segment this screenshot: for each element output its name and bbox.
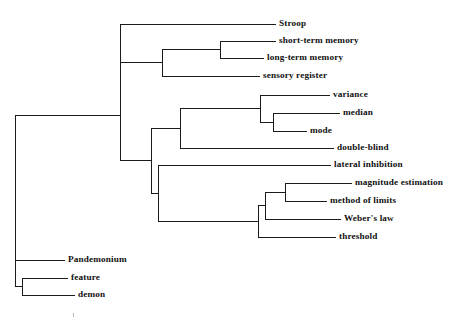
dendrogram-canvas: Stroopshort-term memorylong-term memorys… — [0, 0, 466, 327]
leaf-label-feature: feature — [71, 272, 100, 282]
link-stats-sensation — [151, 128, 180, 193]
leaf-label-sensory-register: sensory register — [263, 70, 327, 80]
link-psycho-threshold — [258, 206, 336, 238]
link-cognition — [120, 24, 276, 63]
leaf-label-median: median — [343, 107, 373, 117]
leaf-label-demon: demon — [78, 289, 105, 299]
link-variance-stats — [260, 95, 330, 122]
link-memory-sensory — [162, 50, 260, 77]
leaf-label-long-term-memory: long-term memory — [267, 52, 343, 62]
leaf-label-magnitude-estimation: magnitude estimation — [355, 177, 443, 187]
leaf-label-variance: variance — [333, 89, 368, 99]
leaf-label-mode: mode — [310, 125, 332, 135]
link-lateral-psycho — [158, 165, 331, 221]
leaf-label-lateral-inhibition: lateral inhibition — [334, 159, 403, 169]
artifact-speck — [73, 313, 74, 317]
leaf-label-method-of-limits: method of limits — [330, 195, 396, 205]
leaf-label-short-term-memory: short-term memory — [279, 35, 359, 45]
leaf-label-layer: Stroopshort-term memorylong-term memorys… — [68, 18, 443, 299]
leaf-label-stroop: Stroop — [279, 18, 306, 28]
leaf-label-webers-law: Weber's law — [344, 213, 394, 223]
dendrogram-figure: Stroopshort-term memorylong-term memorys… — [0, 0, 466, 327]
leaf-label-pandemonium: Pandemonium — [68, 254, 127, 264]
link-upper-root — [120, 63, 151, 161]
link-root — [15, 115, 120, 260]
link-feature-demon — [22, 278, 75, 295]
leaf-label-double-blind: double-blind — [337, 142, 389, 152]
leaf-label-threshold: threshold — [339, 231, 377, 241]
branch-layer — [15, 24, 352, 295]
artifact-layer — [73, 313, 74, 317]
